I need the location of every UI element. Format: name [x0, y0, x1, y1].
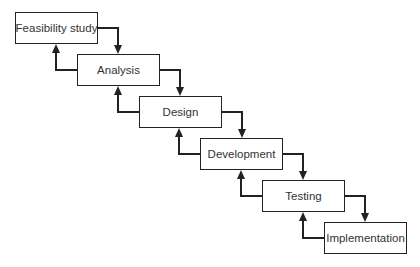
feedback-arrow	[118, 94, 139, 112]
arrowhead-up-icon	[175, 128, 183, 137]
stage-design: Design	[139, 96, 222, 128]
stage-testing: Testing	[262, 180, 345, 212]
feedback-arrow	[56, 52, 77, 70]
arrowhead-up-icon	[299, 212, 307, 221]
arrowhead-down-icon	[176, 87, 184, 96]
stage-label: Testing	[285, 190, 321, 202]
feedback-arrow	[241, 178, 262, 196]
stage-implementation: Implementation	[324, 222, 407, 254]
forward-arrow	[222, 112, 242, 130]
forward-arrow	[283, 154, 303, 172]
arrowhead-up-icon	[114, 86, 122, 95]
arrowhead-up-icon	[237, 170, 245, 179]
arrowhead-down-icon	[238, 129, 246, 138]
stage-label: Development	[208, 148, 276, 160]
arrowhead-down-icon	[361, 213, 369, 222]
waterfall-diagram: Feasibility study Analysis Design Develo…	[0, 0, 420, 267]
stage-development: Development	[200, 138, 283, 170]
stage-analysis: Analysis	[77, 54, 160, 86]
forward-arrow	[98, 28, 118, 46]
forward-arrow	[345, 196, 365, 214]
stage-label: Feasibility study	[16, 22, 98, 34]
stage-feasibility-study: Feasibility study	[15, 12, 98, 44]
arrowhead-down-icon	[299, 171, 307, 180]
arrowhead-up-icon	[52, 44, 60, 53]
stage-label: Analysis	[97, 64, 140, 76]
feedback-arrow	[303, 220, 324, 238]
feedback-arrow	[179, 136, 200, 154]
arrowhead-down-icon	[114, 45, 122, 54]
forward-arrow	[160, 70, 180, 88]
stage-label: Implementation	[326, 232, 405, 244]
stage-label: Design	[163, 106, 199, 118]
